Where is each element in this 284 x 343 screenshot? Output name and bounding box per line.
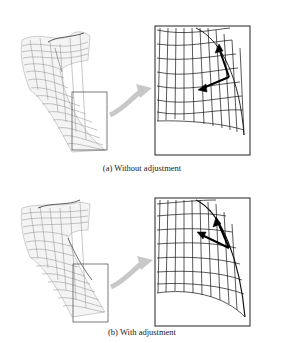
panel-a-illustration <box>0 0 284 172</box>
figure-panel-b: (b) With adjustment <box>0 172 284 343</box>
panel-b-illustration <box>0 172 284 343</box>
figure-panel-a: (a) Without adjustment <box>0 0 284 172</box>
connector-arrow <box>110 92 140 115</box>
zoom-box <box>155 198 250 326</box>
connector-arrow <box>111 264 141 287</box>
caption-b: (b) With adjustment <box>0 327 284 337</box>
overview-mesh-surface <box>21 200 105 317</box>
